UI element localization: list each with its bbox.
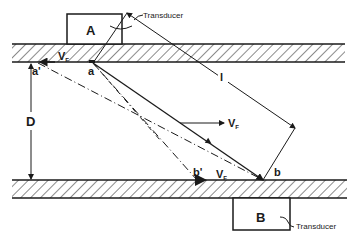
vf-label-bottom: VF [216, 168, 227, 181]
transducer-b: B Transducer [233, 198, 337, 231]
point-a-prime-label: a' [32, 65, 41, 77]
path-length-label: l [220, 71, 223, 83]
diameter-dimension: D [26, 64, 35, 179]
diameter-label: D [26, 114, 35, 129]
point-b-label: b [274, 166, 281, 178]
bottom-pipe-wall [12, 180, 347, 198]
transducer-b-label: B [256, 210, 265, 225]
point-b-group: b' VF b [193, 166, 281, 181]
path-length-dimension: l [127, 13, 295, 180]
transducer-b-callout: Transducer [296, 222, 337, 231]
point-b-prime-label: b' [193, 166, 203, 178]
transducer-a-callout: Transducer [143, 11, 184, 20]
flow-velocity-center: VF [180, 117, 239, 130]
point-a-label: a [88, 65, 95, 77]
vf-label-center: VF [228, 117, 239, 130]
flowmeter-diagram: A Transducer B Transducer l VF a' a [0, 0, 360, 244]
transducer-a-label: A [86, 23, 96, 38]
